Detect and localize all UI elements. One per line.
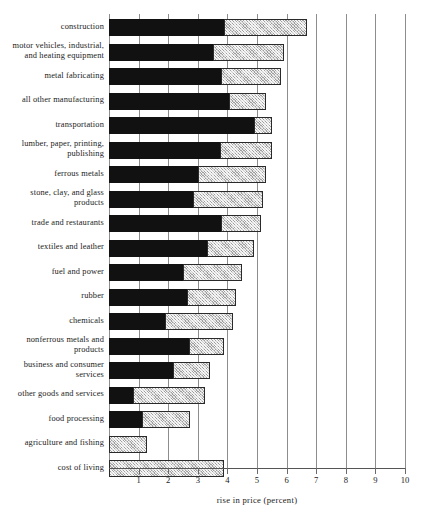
bar-segment-dark xyxy=(109,338,189,355)
bar-row xyxy=(109,313,405,330)
x-axis-tick-label: 2 xyxy=(158,475,178,485)
category-label: cost of living xyxy=(0,463,104,473)
x-axis-tick xyxy=(168,468,169,474)
category-label-line: cost of living xyxy=(0,463,104,473)
bar-row xyxy=(109,68,405,85)
bar-segment-light xyxy=(220,142,272,159)
x-axis-tick-label: 6 xyxy=(277,475,297,485)
bar-row xyxy=(109,264,405,281)
category-label-line: business and consumer xyxy=(0,360,104,370)
category-label-line: other goods and services xyxy=(0,389,104,399)
bar-segment-light xyxy=(207,240,254,257)
x-axis-tick xyxy=(346,468,347,474)
category-label-line: chemicals xyxy=(0,316,104,326)
category-label-line: transportation xyxy=(0,120,104,130)
bar-row xyxy=(109,289,405,306)
category-label: stone, clay, and glassproducts xyxy=(0,188,104,208)
category-label: agriculture and fishing xyxy=(0,438,104,448)
x-axis-tick-label: 9 xyxy=(365,475,385,485)
bar-segment-light xyxy=(229,93,266,110)
bar-segment-dark xyxy=(109,264,183,281)
x-axis-title: rise in price (percent) xyxy=(109,495,405,505)
category-label-line: nonferrous metals and xyxy=(0,335,104,345)
bar-segment-light xyxy=(198,166,266,183)
bar-segment-light xyxy=(183,264,242,281)
category-label: rubber xyxy=(0,291,104,301)
bar-row xyxy=(109,240,405,257)
bar-segment-dark xyxy=(109,313,165,330)
bar-segment-dark xyxy=(109,68,221,85)
bar-segment-dark xyxy=(109,289,187,306)
x-axis-tick-label: 5 xyxy=(247,475,267,485)
category-label-line: products xyxy=(0,345,104,355)
category-label: metal fabricating xyxy=(0,71,104,81)
category-label-line: services xyxy=(0,370,104,380)
bar-segment-dark xyxy=(109,142,220,159)
x-axis-tick xyxy=(287,468,288,474)
x-axis-tick-label: 10 xyxy=(395,475,415,485)
category-label: ferrous metals xyxy=(0,169,104,179)
bar-row xyxy=(109,338,405,355)
category-label: trade and restaurants xyxy=(0,218,104,228)
bar-segment-dark xyxy=(109,240,207,257)
category-label-line: trade and restaurants xyxy=(0,218,104,228)
category-label-line: stone, clay, and glass xyxy=(0,188,104,198)
gridline-10 xyxy=(405,14,406,468)
bar-segment-dark xyxy=(109,19,224,36)
category-label-line: ferrous metals xyxy=(0,169,104,179)
category-label-line: fuel and power xyxy=(0,267,104,277)
category-label: all other manufacturing xyxy=(0,95,104,105)
bar-segment-dark xyxy=(109,362,173,379)
category-label: construction xyxy=(0,22,104,32)
category-label-line: products xyxy=(0,198,104,208)
category-label: fuel and power xyxy=(0,267,104,277)
x-axis-tick xyxy=(257,468,258,474)
bar-segment-dark xyxy=(109,387,133,404)
bar-row xyxy=(109,387,405,404)
category-label: chemicals xyxy=(0,316,104,326)
bar-row xyxy=(109,44,405,61)
x-axis-tick-label: 1 xyxy=(129,475,149,485)
category-label-line: agriculture and fishing xyxy=(0,438,104,448)
bar-segment-light xyxy=(189,338,225,355)
category-label: business and consumerservices xyxy=(0,360,104,380)
bar-segment-light xyxy=(142,411,191,428)
category-label: other goods and services xyxy=(0,389,104,399)
category-label-line: lumber, paper, printing, xyxy=(0,139,104,149)
bar-segment-dark xyxy=(109,191,193,208)
bar-segment-dark xyxy=(109,93,229,110)
bar-row xyxy=(109,411,405,428)
x-axis-tick xyxy=(139,468,140,474)
category-label-column: constructionmotor vehicles, industrial,a… xyxy=(0,14,104,468)
category-label: transportation xyxy=(0,120,104,130)
bar-segment-light xyxy=(254,117,272,134)
bar-segment-light xyxy=(221,68,280,85)
bar-row xyxy=(109,166,405,183)
category-label-line: metal fabricating xyxy=(0,71,104,81)
bar-segment-dark xyxy=(109,215,221,232)
category-label-line: publishing xyxy=(0,149,104,159)
x-axis-tick-label: 8 xyxy=(336,475,356,485)
category-label-line: motor vehicles, industrial, xyxy=(0,41,104,51)
x-axis-tick xyxy=(375,468,376,474)
x-axis-tick xyxy=(405,468,406,474)
bar-segment-dark xyxy=(109,117,254,134)
bar-segment-light xyxy=(213,44,284,61)
category-label: textiles and leather xyxy=(0,242,104,252)
category-label-line: textiles and leather xyxy=(0,242,104,252)
bar-segment-light xyxy=(221,215,261,232)
category-label-line: all other manufacturing xyxy=(0,95,104,105)
bar-row xyxy=(109,191,405,208)
category-label: nonferrous metals andproducts xyxy=(0,335,104,355)
category-label-line: construction xyxy=(0,22,104,32)
bar-segment-light xyxy=(165,313,233,330)
category-label: lumber, paper, printing,publishing xyxy=(0,139,104,159)
bar-row xyxy=(109,215,405,232)
bar-row xyxy=(109,117,405,134)
bar-segment-light xyxy=(224,19,307,36)
x-axis-tick-label: 7 xyxy=(306,475,326,485)
bar-segment-light xyxy=(173,362,210,379)
plot-area xyxy=(109,14,405,468)
bar-segment-dark xyxy=(109,411,142,428)
